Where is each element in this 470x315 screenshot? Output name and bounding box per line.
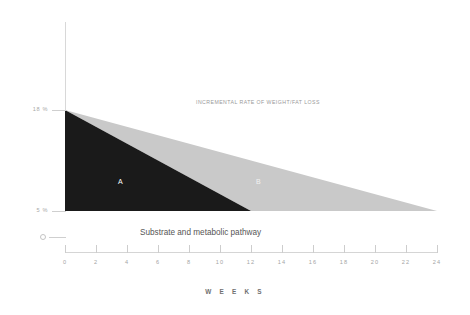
origin-leader-rule [49,237,66,238]
origin-circle-marker [40,234,46,240]
y-axis-label-18: 18 % [14,106,48,112]
x-axis-label-10: 10 [216,259,224,265]
x-axis-label-24: 24 [433,259,441,265]
annotation-incremental-rate: INCREMENTAL RATE OF WEIGHT/FAT LOSS [196,99,320,105]
x-axis-label-6: 6 [156,259,160,265]
x-axis-label-18: 18 [340,259,348,265]
x-axis-label-8: 8 [187,259,191,265]
y-tick-rule-5 [52,211,66,212]
x-axis-tick-24 [437,245,438,253]
x-axis-tick-14 [282,245,283,253]
x-axis-tick-20 [375,245,376,253]
x-axis-tick-16 [313,245,314,253]
x-axis-tick-8 [189,245,190,253]
region-b-label: B [256,178,261,185]
x-axis-tick-0 [65,245,66,253]
y-tick-rule-18 [52,110,66,111]
y-axis-label-5: 5 % [14,207,48,213]
annotation-substrate-pathway: Substrate and metabolic pathway [140,228,261,237]
x-axis-tick-22 [406,245,407,253]
x-axis-label-20: 20 [371,259,379,265]
x-axis-label-16: 16 [309,259,317,265]
x-axis-tick-12 [251,245,252,253]
x-axis-tick-6 [158,245,159,253]
x-axis-tick-4 [127,245,128,253]
x-axis-label-12: 12 [247,259,255,265]
plot-area [0,0,470,315]
chart-canvas: A B 18 % 5 % B O D Y F A T INCREMENTAL R… [0,0,470,315]
x-axis-label-4: 4 [125,259,129,265]
x-axis-tick-2 [96,245,97,253]
x-axis-tick-18 [344,245,345,253]
x-axis-label-22: 22 [402,259,410,265]
region-a-label: A [118,178,123,185]
x-axis-label-0: 0 [63,259,67,265]
x-axis-label-14: 14 [278,259,286,265]
x-axis-label-2: 2 [94,259,98,265]
x-axis-tick-10 [220,245,221,253]
x-axis-title: W E E K S [0,288,470,295]
